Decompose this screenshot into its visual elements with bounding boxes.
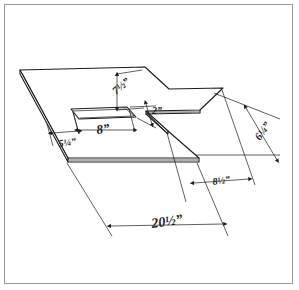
drawing-sheet: 7½” 2” 8” 5¼” 6¼” — [0, 0, 299, 290]
ext-line-8-1-2-right — [222, 90, 255, 185]
dimension-20-1-2 — [67, 163, 228, 236]
ext-line-8-1-2-left — [167, 133, 186, 202]
dimension-label-8: 8” — [96, 120, 111, 137]
isometric-plate-drawing: 7½” 2” 8” 5¼” 6¼” — [0, 0, 299, 290]
plate-slot — [71, 107, 136, 119]
slot-inner-depth — [73, 109, 134, 118]
dimension-8-1-2 — [167, 90, 255, 202]
dimension-label-8-1-2: 8½” — [212, 174, 231, 187]
dimension-label-2: 2” — [151, 105, 162, 116]
ext-line-6-1-4-top — [214, 93, 280, 119]
dimension-label-5-1-4: 5¼” — [58, 136, 77, 149]
notch-riser-thickness-inner — [147, 113, 167, 133]
dimension-label-20-1-2: 20½” — [149, 212, 183, 231]
dim-line-5-1-4 — [52, 131, 79, 133]
ext-line-5-1-4-left — [47, 124, 53, 146]
dimension-label-7-1-2: 7½” — [110, 75, 133, 97]
ext-line-20-1-2-left — [67, 163, 112, 236]
ext-line-7-1-2-top — [117, 70, 142, 74]
